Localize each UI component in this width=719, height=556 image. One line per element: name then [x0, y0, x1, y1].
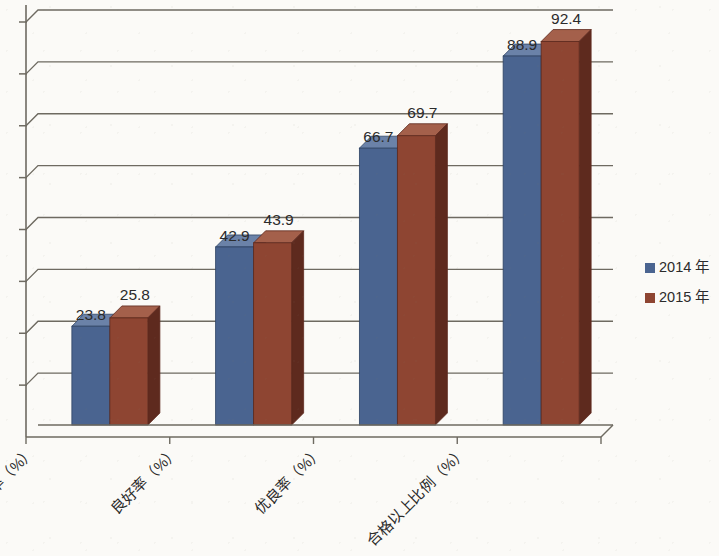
bar-front-face — [541, 42, 579, 425]
category-label: 合格以上比例（%） — [363, 443, 469, 549]
x-axis-ticks — [26, 437, 601, 444]
floor-plane — [26, 425, 613, 437]
data-label: 92.4 — [551, 10, 582, 27]
data-label: 42.9 — [220, 227, 250, 244]
category-label: 优良率（%） — [251, 443, 325, 517]
bar-chart-3d: 23.825.842.943.966.769.788.992.4 优秀率（%）良… — [0, 0, 719, 556]
category-label: 优秀率（%） — [0, 443, 38, 517]
bar-front-face — [216, 247, 254, 425]
bar-side-face — [292, 231, 304, 425]
legend-swatch — [645, 263, 655, 273]
chart-legend: 2014 年2015 年 — [645, 259, 709, 305]
bar-side-face — [579, 30, 591, 425]
bar-front-face — [72, 326, 110, 425]
bar-side-face — [148, 306, 160, 425]
category-label: 良好率（%） — [107, 443, 181, 517]
bar-side-face — [435, 124, 447, 425]
legend-label: 2015 年 — [659, 289, 709, 305]
data-label: 25.8 — [120, 286, 150, 303]
bar-front-face — [359, 148, 397, 425]
y-axis — [19, 5, 27, 437]
data-label: 66.7 — [363, 128, 393, 145]
legend-label: 2014 年 — [659, 259, 709, 275]
bar — [110, 306, 160, 425]
bar — [254, 231, 304, 425]
bar-front-face — [254, 243, 292, 425]
data-label: 69.7 — [407, 104, 437, 121]
bar — [397, 124, 447, 425]
data-label: 88.9 — [507, 36, 537, 53]
bar — [541, 30, 591, 425]
legend-swatch — [645, 293, 655, 303]
bar-front-face — [503, 56, 541, 425]
bar-front-face — [110, 318, 148, 425]
category-labels-group: 优秀率（%）良好率（%）优良率（%）合格以上比例（%） — [0, 443, 469, 549]
data-label: 43.9 — [264, 211, 294, 228]
chart-container: 23.825.842.943.966.769.788.992.4 优秀率（%）良… — [0, 0, 719, 556]
data-label: 23.8 — [76, 306, 106, 323]
bar-front-face — [397, 136, 435, 425]
